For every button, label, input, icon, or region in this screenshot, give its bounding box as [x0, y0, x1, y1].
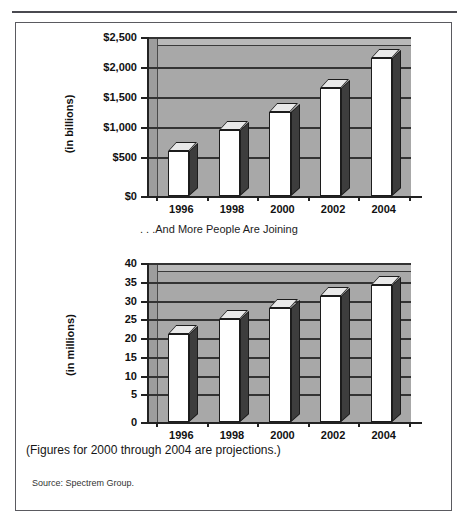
- bar: [219, 130, 240, 196]
- x-tick-label: 1996: [169, 203, 193, 215]
- y-tick-label: 15: [56, 351, 137, 363]
- bar: [269, 308, 290, 422]
- y-tick-label: $1,000: [56, 121, 137, 133]
- x-tick-label: 2000: [270, 429, 294, 441]
- bar-side-face: [189, 326, 198, 422]
- x-tick-mark: [207, 196, 209, 201]
- x-tick-label: 2002: [321, 203, 345, 215]
- bar-side-face: [240, 311, 249, 422]
- figure-frame: (in billions) $0$500$1,000$1,500$2,000$2…: [15, 22, 452, 511]
- chart0-x-axis: [147, 196, 422, 198]
- y-tick-label: 40: [56, 257, 137, 269]
- bar-side-face: [189, 143, 198, 196]
- bar: [168, 334, 189, 422]
- bar-side-face: [392, 277, 401, 422]
- chart1-bars: [149, 263, 411, 422]
- y-tick-label: 25: [56, 313, 137, 325]
- chart1-y-axis-title: (in millions): [64, 290, 76, 400]
- bar-side-face: [291, 104, 300, 196]
- figure-page: (in billions) $0$500$1,000$1,500$2,000$2…: [0, 0, 469, 523]
- x-tick-mark: [358, 196, 360, 201]
- y-tick-label: $2,000: [56, 61, 137, 73]
- clipped-header-text: [12, 0, 457, 3]
- x-tick-mark: [358, 422, 360, 427]
- x-tick-mark: [156, 196, 158, 201]
- bar: [320, 88, 341, 196]
- bar-front-face: [320, 88, 341, 196]
- y-tick-label: 5: [56, 388, 137, 400]
- bar: [371, 58, 392, 196]
- y-tick-label: 20: [56, 332, 137, 344]
- y-tick-label: 35: [56, 276, 137, 288]
- x-tick-label: 2004: [371, 429, 395, 441]
- bar: [219, 319, 240, 422]
- chart0-plot-area: [147, 37, 411, 198]
- bar-side-face: [341, 288, 350, 422]
- bar-front-face: [320, 296, 341, 422]
- y-tick-label: $1,500: [56, 91, 137, 103]
- chart-assets-in-billions: (in billions) $0$500$1,000$1,500$2,000$2…: [16, 23, 453, 228]
- x-tick-mark: [409, 422, 411, 427]
- x-tick-label: 1998: [220, 203, 244, 215]
- bar-front-face: [269, 308, 290, 422]
- top-horizontal-rule: [12, 11, 457, 13]
- bar-side-face: [341, 80, 350, 196]
- bar: [371, 285, 392, 422]
- bar-front-face: [371, 285, 392, 422]
- bar-front-face: [219, 319, 240, 422]
- chart1-x-axis: [147, 422, 422, 424]
- middle-caption: . . .And More People Are Joining: [140, 223, 298, 235]
- bar-front-face: [371, 58, 392, 196]
- y-tick-label: 0: [56, 416, 137, 428]
- bar: [168, 151, 189, 196]
- bar-front-face: [168, 334, 189, 422]
- y-tick-label: 10: [56, 370, 137, 382]
- bar-front-face: [219, 130, 240, 196]
- x-tick-mark: [156, 422, 158, 427]
- chart1-plot-area: [147, 263, 411, 424]
- x-tick-label: 2000: [270, 203, 294, 215]
- x-tick-mark: [207, 422, 209, 427]
- x-tick-label: 1998: [220, 429, 244, 441]
- y-tick-label: $2,500: [56, 31, 137, 43]
- x-tick-mark: [308, 422, 310, 427]
- x-tick-mark: [257, 196, 259, 201]
- x-tick-label: 2004: [371, 203, 395, 215]
- chart-households-in-millions: (in millions) 0510152025303540 199619982…: [16, 251, 453, 446]
- x-tick-mark: [409, 196, 411, 201]
- chart0-bars: [149, 37, 411, 196]
- y-tick-label: $0: [56, 190, 137, 202]
- bar: [320, 296, 341, 422]
- x-tick-mark: [308, 196, 310, 201]
- projection-note: (Figures for 2000 through 2004 are proje…: [26, 443, 281, 457]
- source-line: Source: Spectrem Group.: [32, 478, 134, 488]
- x-tick-mark: [257, 422, 259, 427]
- bar: [269, 112, 290, 196]
- x-tick-label: 1996: [169, 429, 193, 441]
- bar-front-face: [269, 112, 290, 196]
- x-tick-label: 2002: [321, 429, 345, 441]
- bar-side-face: [291, 300, 300, 422]
- bar-side-face: [240, 122, 249, 196]
- bar-side-face: [392, 50, 401, 196]
- bar-front-face: [168, 151, 189, 196]
- y-tick-label: 30: [56, 295, 137, 307]
- y-tick-label: $500: [56, 151, 137, 163]
